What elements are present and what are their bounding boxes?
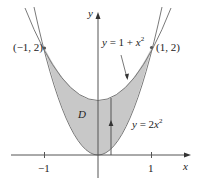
- leader-arrow-icon: [125, 74, 129, 80]
- point-label-neg1-2: (−1, 2): [13, 41, 43, 54]
- region-label: D: [77, 108, 86, 120]
- x-axis-arrow-icon: [184, 153, 191, 158]
- diagram-canvas: y x −1 1 (−1, 2) (1, 2) D y = 1 + x2 y =…: [0, 0, 201, 193]
- upper-curve-label: y = 1 + x2: [101, 35, 145, 48]
- x-tick-label-neg1: −1: [38, 162, 50, 174]
- region-diagram: y x −1 1 (−1, 2) (1, 2) D y = 1 + x2 y =…: [0, 0, 201, 193]
- lower-curve-label-rest: = 2: [137, 118, 154, 130]
- y-axis-arrow-icon: [96, 12, 101, 19]
- x-axis-label: x: [182, 160, 188, 172]
- point-label-1-2: (1, 2): [156, 41, 180, 54]
- point-neg1-2: [43, 46, 46, 49]
- y-axis-label: y: [87, 7, 93, 19]
- point-1-2: [150, 46, 153, 49]
- x-tick-label-1: 1: [148, 162, 154, 174]
- lower-curve-label: y = 2x2: [131, 117, 163, 130]
- upper-curve-label-rest: = 1 +: [107, 36, 136, 48]
